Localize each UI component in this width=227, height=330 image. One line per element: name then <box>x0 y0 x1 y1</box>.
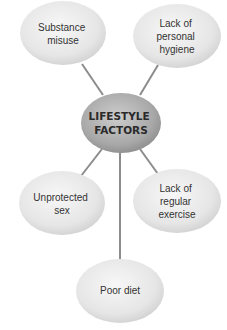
node-lack-regular-exercise: Lack of regular exercise <box>133 169 221 233</box>
connector-lack-regular-exercise <box>140 149 158 174</box>
node-substance-misuse: Substance misuse <box>20 1 106 65</box>
node-poor-diet: Poor diet <box>76 259 164 323</box>
node-label: Lack of regular exercise <box>158 183 196 220</box>
center-node-lifestyle-factors: LIFESTYLE FACTORS <box>81 93 161 153</box>
connector-unprotected-sex <box>81 149 102 176</box>
node-label: Lack of personal hygiene <box>156 18 197 55</box>
connector-lack-personal-hygiene <box>140 65 158 95</box>
mind-map-diagram: Substance misuse Lack of personal hygien… <box>0 0 227 330</box>
node-unprotected-sex: Unprotected sex <box>19 171 105 235</box>
connector-substance-misuse <box>82 64 103 95</box>
node-lack-personal-hygiene: Lack of personal hygiene <box>133 4 221 68</box>
node-label: Poor diet <box>100 285 140 296</box>
